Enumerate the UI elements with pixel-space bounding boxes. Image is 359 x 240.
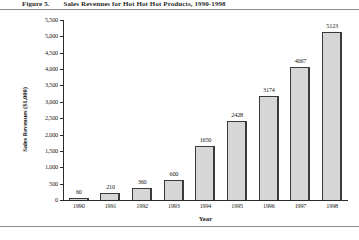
bar-slot: 4067: [285, 20, 317, 200]
x-axis-tick-label: 1995: [221, 203, 253, 209]
y-axis-tick-label: 500: [30, 181, 58, 187]
y-axis-tick-label: 1,500: [30, 148, 58, 154]
figure-caption: Figure 5. Sales Revenues for Hot Hot Hot…: [0, 0, 359, 9]
y-axis-tick-label: 5,000: [30, 33, 58, 39]
bar-slot: 360: [126, 20, 158, 200]
figure-caption-label: Figure 5.: [0, 0, 50, 8]
x-axis-tick-label: 1993: [158, 203, 190, 209]
bar-slot: 600: [158, 20, 190, 200]
bar-slot: 210: [95, 20, 127, 200]
bar-value-label: 3174: [253, 87, 285, 93]
y-axis-tick-label: 0: [30, 197, 58, 203]
bar-value-label: 360: [126, 179, 158, 185]
x-axis-tick-labels: 199019911992199319941995199619971998: [63, 203, 348, 213]
y-axis-tick-label: 3,000: [30, 99, 58, 105]
y-axis-tick-label: 4,500: [30, 50, 58, 56]
y-axis-tick-label: 3,500: [30, 82, 58, 88]
y-axis-tick-label: 4,000: [30, 66, 58, 72]
bar: [69, 198, 89, 200]
bar-value-label: 5123: [316, 23, 348, 29]
x-axis-tick-label: 1996: [253, 203, 285, 209]
x-axis-tick-label: 1997: [285, 203, 317, 209]
rule-bottom: [0, 226, 359, 227]
x-axis-tick-label: 1991: [95, 203, 127, 209]
bar: [259, 96, 279, 200]
x-axis-title: Year: [63, 215, 348, 222]
bar-value-label: 1650: [190, 137, 222, 143]
bar: [322, 32, 342, 200]
bar-value-label: 600: [158, 171, 190, 177]
x-axis-tick-label: 1998: [316, 203, 348, 209]
bar-slot: 60: [63, 20, 95, 200]
x-axis-line: [63, 200, 348, 201]
y-axis-tick-label: 5,500: [30, 17, 58, 23]
bar-slot: 1650: [190, 20, 222, 200]
y-axis-title: Sales Revenues ($1,000): [21, 55, 28, 185]
bar-chart-plot: Sales Revenues ($1,000) 05001,0001,5002,…: [0, 9, 359, 226]
figure-container: Figure 5. Sales Revenues for Hot Hot Hot…: [0, 0, 359, 240]
bar-slot: 3174: [253, 20, 285, 200]
bar: [195, 146, 215, 200]
x-axis-tick-label: 1990: [63, 203, 95, 209]
bar-slot: 2428: [221, 20, 253, 200]
bar-value-label: 2428: [221, 112, 253, 118]
bar: [164, 180, 184, 200]
bar-value-label: 210: [95, 184, 127, 190]
y-axis-tick-label: 2,500: [30, 115, 58, 121]
bar-value-label: 4067: [285, 58, 317, 64]
figure-caption-text: Sales Revenues for Hot Hot Hot Products,…: [51, 0, 225, 8]
bar-series: 6021036060016502428317440675123: [63, 20, 348, 200]
y-axis-tick-label: 1,000: [30, 164, 58, 170]
x-axis-tick-label: 1994: [190, 203, 222, 209]
y-axis-tick-labels: 05001,0001,5002,0002,5003,0003,5004,0004…: [30, 9, 58, 209]
bar: [290, 67, 310, 200]
bar-value-label: 60: [63, 189, 95, 195]
y-axis-tick-label: 2,000: [30, 132, 58, 138]
bar-slot: 5123: [316, 20, 348, 200]
bar: [132, 188, 152, 200]
x-axis-tick-label: 1992: [126, 203, 158, 209]
bar: [100, 193, 120, 200]
bar: [227, 121, 247, 200]
